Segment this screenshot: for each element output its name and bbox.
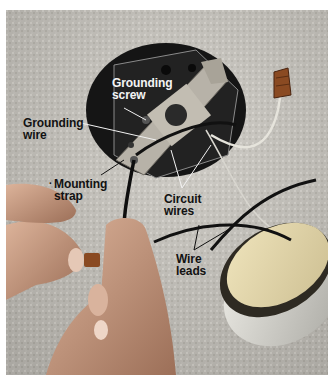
wire-nut-hand: [84, 253, 100, 267]
wire-nut-top: [274, 68, 291, 98]
bullet-dot: ·: [49, 178, 52, 190]
label-mounting-strap: Mounting strap: [54, 178, 107, 202]
label-wire-leads: Wire leads: [176, 253, 206, 277]
grounding-screw: [142, 116, 150, 124]
label-grounding-wire: Grounding wire: [23, 117, 83, 141]
label-grounding-screw: Grounding screw: [112, 77, 172, 101]
instructional-photo: Grounding screw Grounding wire Mounting …: [6, 10, 328, 375]
label-circuit-wires: Circuit wires: [164, 193, 201, 217]
